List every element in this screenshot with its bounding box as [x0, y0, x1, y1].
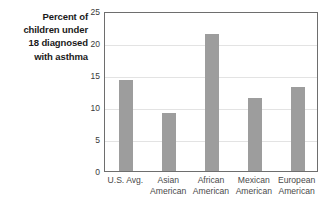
- plot-area: [104, 12, 318, 172]
- bar-asian-american: [162, 113, 176, 171]
- y-axis-tick-10: 10: [78, 104, 100, 113]
- x-axis-label-4-line-1: American: [269, 186, 325, 197]
- chart-title-line-2: children under: [0, 23, 88, 36]
- y-axis-tick-5: 5: [78, 136, 100, 145]
- bar-african-american: [205, 34, 219, 171]
- y-axis-tick-20: 20: [78, 40, 100, 49]
- y-axis-tick-15: 15: [78, 72, 100, 81]
- chart-title-line-1: Percent of: [0, 10, 88, 23]
- x-axis-label-4-line-0: European: [269, 175, 325, 186]
- asthma-bar-chart-figure: Percent of children under 18 diagnosed w…: [0, 0, 335, 213]
- chart-title-line-3: 18 diagnosed: [0, 36, 88, 49]
- y-axis-tick-25: 25: [78, 8, 100, 17]
- bar-mexican-american: [248, 98, 262, 171]
- bar-u-s-avg: [119, 80, 133, 171]
- bar-european-american: [291, 87, 305, 171]
- chart-title-line-4: with asthma: [0, 50, 88, 63]
- chart-title: Percent of children under 18 diagnosed w…: [0, 10, 88, 63]
- x-axis-label-4: EuropeanAmerican: [269, 175, 325, 196]
